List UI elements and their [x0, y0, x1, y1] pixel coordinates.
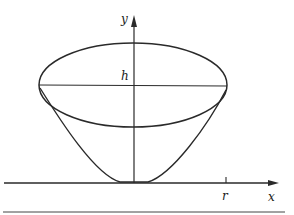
y-axis-arrow-icon: [131, 15, 137, 27]
height-label: h: [121, 69, 129, 83]
height-chord: [39, 85, 227, 86]
x-axis-label: x: [268, 190, 275, 204]
x-axis-arrow-icon: [268, 180, 279, 186]
radius-label: r: [222, 189, 229, 203]
y-axis-label: y: [120, 12, 128, 26]
paraboloid-diagram: y h r x: [0, 0, 294, 215]
paraboloid-profile: [40, 88, 226, 182]
